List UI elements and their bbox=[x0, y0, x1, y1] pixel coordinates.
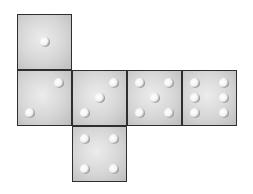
die-face-1 bbox=[17, 14, 72, 70]
pip-icon bbox=[219, 93, 229, 103]
die-face-5 bbox=[127, 70, 182, 126]
pip-icon bbox=[150, 93, 160, 103]
pip-icon bbox=[109, 134, 119, 144]
die-face-4 bbox=[72, 126, 127, 182]
pip-icon bbox=[25, 108, 35, 118]
pip-icon bbox=[95, 93, 105, 103]
die-face-2 bbox=[17, 70, 72, 126]
pip-icon bbox=[40, 37, 50, 47]
pip-icon bbox=[219, 78, 229, 88]
die-face-3 bbox=[72, 70, 127, 126]
pip-icon bbox=[135, 108, 145, 118]
die-face-6 bbox=[182, 70, 237, 126]
pip-icon bbox=[80, 108, 90, 118]
pip-icon bbox=[190, 93, 200, 103]
pip-icon bbox=[135, 78, 145, 88]
pip-icon bbox=[54, 78, 64, 88]
pip-icon bbox=[190, 78, 200, 88]
pip-icon bbox=[219, 108, 229, 118]
pip-icon bbox=[109, 78, 119, 88]
pip-icon bbox=[109, 164, 119, 174]
pip-icon bbox=[164, 108, 174, 118]
pip-icon bbox=[190, 108, 200, 118]
pip-icon bbox=[164, 78, 174, 88]
pip-icon bbox=[80, 134, 90, 144]
pip-icon bbox=[80, 164, 90, 174]
